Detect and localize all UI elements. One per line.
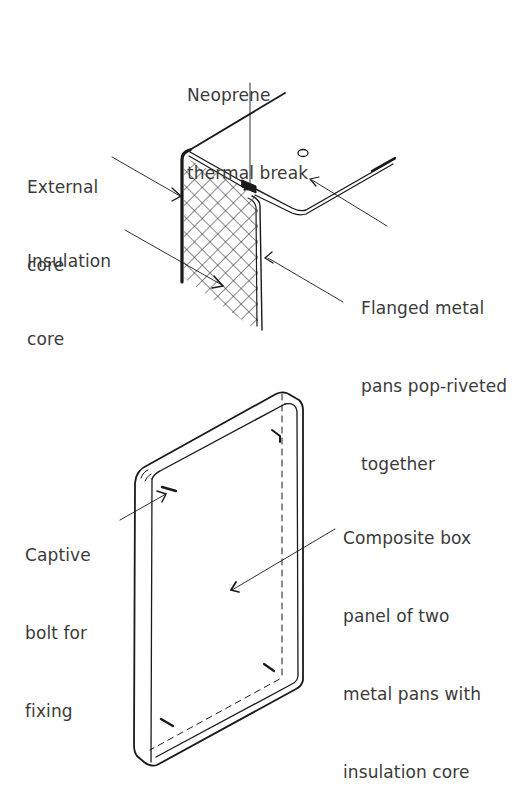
label-neoprene: Neoprene thermal break <box>187 30 308 212</box>
label-captive-bolt: Captive bolt for fixing <box>25 490 91 750</box>
composite-panel-drawing <box>134 392 303 765</box>
label-insulation-core: Insulation core <box>27 196 111 378</box>
bolt-mark-top-left <box>162 487 176 491</box>
label-flanged-line-2: pans pop-riveted <box>361 373 507 399</box>
leader-external <box>112 157 180 196</box>
leader-captive <box>120 494 166 520</box>
label-neoprene-line-2: thermal break <box>187 160 308 186</box>
label-insulation-line-2: core <box>27 326 111 352</box>
label-composite-panel: Composite box panel of two metal pans wi… <box>343 473 481 795</box>
bolt-mark-bottom-right <box>264 664 274 671</box>
panel-front-top-edge <box>152 404 285 479</box>
label-neoprene-line-1: Neoprene <box>187 82 308 108</box>
label-composite-line-2: panel of two <box>343 603 481 629</box>
corner-arc-top-left <box>141 470 151 481</box>
panel-front-left-edge <box>151 479 152 762</box>
label-captive-line-2: bolt for <box>25 620 91 646</box>
leader-composite <box>232 529 335 590</box>
leader-flanged-upper <box>312 180 387 226</box>
label-composite-line-4: insulation core <box>343 759 481 785</box>
label-flanged-line-1: Flanged metal <box>361 295 507 321</box>
label-composite-line-1: Composite box <box>343 525 481 551</box>
label-captive-line-1: Captive <box>25 542 91 568</box>
label-flanged-pans: Flanged metal pans pop-riveted together <box>361 243 507 503</box>
label-insulation-line-1: Insulation <box>27 248 111 274</box>
panel-front-right-edge <box>156 404 298 757</box>
label-captive-line-3: fixing <box>25 698 91 724</box>
panel-outer-left-edge <box>134 392 303 765</box>
arrow-flanged-lower <box>265 252 273 263</box>
label-composite-line-3: metal pans with <box>343 681 481 707</box>
leader-flanged-lower <box>268 258 343 302</box>
bolt-mark-top-right <box>272 430 280 442</box>
bolt-mark-bottom-left <box>161 719 173 726</box>
